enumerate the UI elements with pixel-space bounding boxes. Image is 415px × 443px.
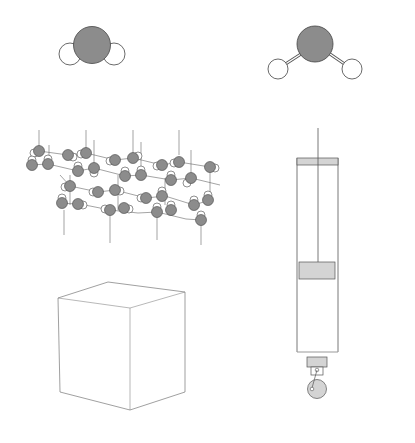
water-molecule-space-filling xyxy=(59,27,125,66)
cylinder-cap xyxy=(297,158,338,165)
piston xyxy=(299,262,335,279)
oxygen-atom xyxy=(74,27,111,64)
figure-canvas xyxy=(0,0,415,443)
water-molecule-ball-and-stick xyxy=(268,26,362,79)
hydrogen-atom xyxy=(342,59,362,79)
ice-structure-model xyxy=(30,130,220,245)
kinetic-model-cylinder xyxy=(297,128,338,399)
crank-block xyxy=(307,357,327,367)
ice-molecules xyxy=(27,146,220,226)
solid-cube-model xyxy=(58,282,185,410)
oxygen-atom xyxy=(297,26,333,62)
hydrogen-atom xyxy=(268,59,288,79)
